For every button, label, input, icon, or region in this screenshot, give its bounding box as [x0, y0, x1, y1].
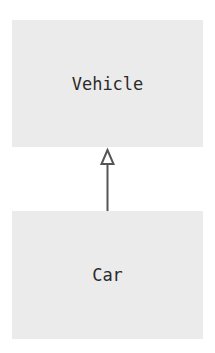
class-box-car: Car [12, 211, 203, 339]
class-label-car: Car [92, 265, 123, 285]
hollow-triangle-arrowhead-icon [102, 150, 114, 164]
